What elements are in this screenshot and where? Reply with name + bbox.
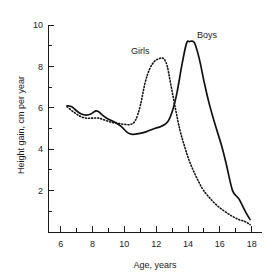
y-tick-label: 10 <box>33 20 43 30</box>
x-tick-label: 8 <box>90 239 95 249</box>
y-tick-label: 4 <box>38 144 43 154</box>
y-tick-label: 6 <box>38 103 43 113</box>
y-axis-title: Height gain, cm per year <box>16 76 26 174</box>
x-axis-title: Age, years <box>133 260 177 270</box>
x-tick-label: 18 <box>247 239 257 249</box>
x-tick-label: 6 <box>58 239 63 249</box>
series-line-girls <box>67 58 250 225</box>
height-velocity-chart: 246810681012141618 GirlsBoys Age, years … <box>0 0 273 276</box>
chart-series-curves <box>67 41 250 225</box>
chart-figure: 246810681012141618 GirlsBoys Age, years … <box>0 0 273 276</box>
y-tick-label: 8 <box>38 62 43 72</box>
chart-series-annotations: GirlsBoys <box>131 30 218 56</box>
x-tick-label: 14 <box>183 239 193 249</box>
x-tick-label: 10 <box>119 239 129 249</box>
series-label-boys: Boys <box>197 30 218 40</box>
y-tick-label: 2 <box>38 186 43 196</box>
x-tick-label: 16 <box>215 239 225 249</box>
chart-tick-marks <box>48 25 252 232</box>
series-label-girls: Girls <box>131 46 150 56</box>
x-tick-label: 12 <box>151 239 161 249</box>
series-line-boys <box>67 41 250 220</box>
